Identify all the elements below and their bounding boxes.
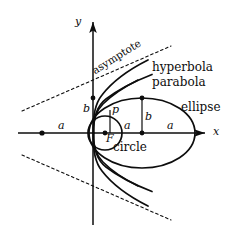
ellipse-label: ellipse	[181, 101, 221, 113]
focus-label: F	[106, 133, 114, 144]
semi-major-left-label: a	[58, 120, 65, 131]
ellipse-semi-minor-label: b	[145, 111, 152, 122]
x-axis-label: x	[213, 126, 219, 137]
circle-label: circle	[113, 141, 147, 153]
conic-sections-diagram	[0, 0, 242, 237]
asymptote-upper-line	[22, 46, 171, 111]
left-vertex-point	[39, 130, 44, 135]
semi-major-center-label: a	[124, 120, 131, 131]
y-axis-b-point	[91, 96, 96, 101]
hyperbola-label: hyperbola	[152, 61, 213, 73]
y-axis-label: y	[75, 16, 81, 27]
ellipse-center-point	[140, 131, 145, 136]
conic-sections-figure: y x asymptote hyperbola parabola ellipse…	[0, 0, 242, 237]
semi-major-right-label: a	[167, 120, 174, 131]
asymptote-lower-line	[22, 155, 171, 220]
ellipse-top-point	[140, 96, 145, 101]
semi-latus-rectum-label: p	[112, 104, 119, 115]
parabola-label: parabola	[152, 76, 206, 88]
semi-minor-axis-y-label: b	[83, 103, 90, 114]
